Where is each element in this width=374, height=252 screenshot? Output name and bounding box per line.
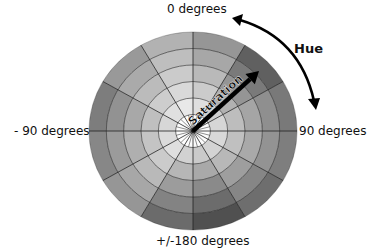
- label-0-degrees: 0 degrees: [167, 2, 227, 16]
- label-90-degrees: 90 degrees: [299, 124, 366, 138]
- label-180-degrees: +/-180 degrees: [156, 234, 249, 248]
- label-minus-90-degrees: - 90 degrees: [14, 124, 90, 138]
- label-hue: Hue: [294, 41, 323, 56]
